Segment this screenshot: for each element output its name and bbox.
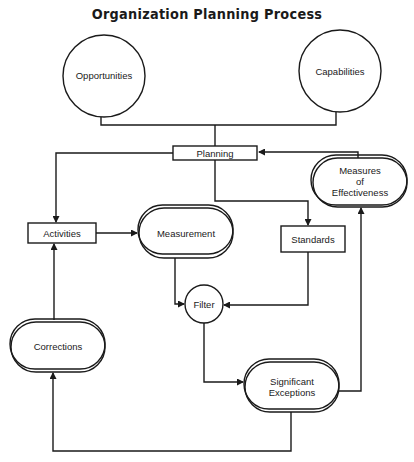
edge-measurement-to-filter — [175, 258, 184, 304]
standards-node — [281, 226, 345, 252]
edge-standards-to-filter — [224, 252, 308, 305]
measurement-node — [138, 205, 233, 258]
filter-node — [185, 285, 223, 323]
edge-opportunities-capabilities-join — [101, 112, 336, 125]
edge-filter-to-exceptions — [204, 323, 243, 382]
corrections-node — [10, 319, 105, 372]
diagram-canvas — [0, 0, 414, 462]
planning-node — [173, 146, 257, 160]
edge-planning-to-activities — [56, 153, 173, 222]
moe-node — [311, 155, 407, 207]
edge-exceptions-to-corrections — [53, 373, 291, 451]
activities-node — [28, 223, 96, 243]
significant-exceptions-node — [244, 359, 339, 412]
edge-exceptions-to-moe — [339, 208, 361, 391]
organization-planning-diagram: Organization Planning Process Opportunit… — [0, 0, 414, 462]
capabilities-node — [299, 30, 381, 112]
opportunities-node — [63, 35, 145, 117]
diagram-title: Organization Planning Process — [17, 6, 398, 22]
